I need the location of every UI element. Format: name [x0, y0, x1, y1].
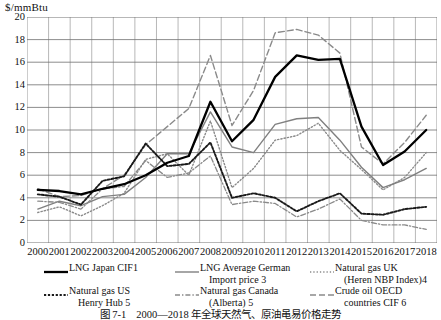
legend-label-line2: Henry Hub 5	[69, 297, 130, 309]
x-axis-tick-labels: 2000200120022003200420052006200720082009…	[27, 246, 437, 262]
series-line-natural-gas-uk-heren-nbp-index-4	[38, 121, 426, 216]
legend-swatch-icon	[44, 291, 68, 299]
series-line-natural-gas-us-henry-hub-5	[38, 142, 426, 214]
y-tick-label: 20	[1, 12, 25, 22]
x-tick-label: 2001	[49, 246, 70, 258]
chart-series-group	[38, 29, 426, 229]
x-tick-label: 2000	[27, 246, 48, 258]
x-tick-label: 2006	[157, 246, 178, 258]
y-tick-label: 16	[1, 57, 25, 67]
legend-label-line1: LNG Average German	[200, 262, 290, 273]
y-tick-label: 14	[1, 80, 25, 90]
legend-label-line2: (Heren NBP Index)4	[335, 274, 427, 286]
x-tick-label: 2005	[135, 246, 156, 258]
legend-label-line2: (Alberta) 5	[200, 297, 278, 309]
y-tick-label: 6	[1, 170, 25, 180]
figure-container: $/mmBtu 02468101214161820 20002001200220…	[0, 0, 441, 320]
legend-swatch-icon	[175, 291, 199, 299]
x-tick-label: 2014	[329, 246, 350, 258]
x-tick-label: 2002	[70, 246, 91, 258]
legend-label-line1: Natural gas Canada	[200, 285, 278, 296]
legend-swatch-icon	[44, 268, 68, 276]
legend-label-line1: LNG Japan CIF1	[69, 262, 138, 273]
y-tick-label: 10	[1, 125, 25, 135]
legend-swatch-icon	[310, 268, 334, 276]
legend-row-2: Natural gas USHenry Hub 5Natural gas Can…	[27, 287, 437, 309]
x-tick-label: 2010	[243, 246, 264, 258]
x-tick-label: 2018	[416, 246, 437, 258]
legend-label-line2: Import price 3	[200, 274, 290, 286]
y-tick-label: 12	[1, 102, 25, 112]
chart-svg	[27, 17, 437, 243]
legend-label: Natural gas Canada(Alberta) 5	[200, 285, 278, 308]
legend-label-line1: Natural gas US	[69, 285, 130, 296]
legend-label-line2: countries CIF 6	[335, 297, 406, 309]
x-tick-label: 2008	[200, 246, 221, 258]
legend-label-line1: Natural gas UK	[335, 262, 398, 273]
x-tick-label: 2011	[265, 246, 286, 258]
y-tick-label: 4	[1, 193, 25, 203]
legend-label: Natural gas USHenry Hub 5	[69, 285, 130, 308]
x-tick-label: 2012	[286, 246, 307, 258]
chart-gridlines	[27, 17, 437, 243]
y-tick-label: 8	[1, 148, 25, 158]
series-line-crude-oil-oecd-countries-cif-6	[38, 29, 426, 196]
legend-label: LNG Japan CIF1	[69, 262, 138, 274]
y-tick-label: 18	[1, 35, 25, 45]
figure-caption: 图 7-1 2000—2018 年全球天然气、原油黾易价格走势	[0, 309, 441, 320]
x-tick-label: 2009	[222, 246, 243, 258]
x-tick-label: 2007	[178, 246, 199, 258]
x-tick-label: 2016	[373, 246, 394, 258]
y-tick-label: 2	[1, 215, 25, 225]
x-tick-label: 2015	[351, 246, 372, 258]
y-tick-label: 0	[1, 238, 25, 248]
x-tick-label: 2003	[92, 246, 113, 258]
legend-row-1: LNG Japan CIF1LNG Average GermanImport p…	[27, 264, 437, 286]
legend-label: Crude oil OECDcountries CIF 6	[335, 285, 406, 308]
x-tick-label: 2017	[394, 246, 415, 258]
y-axis-tick-labels: 02468101214161820	[0, 17, 25, 243]
legend-label-line1: Crude oil OECD	[335, 285, 402, 296]
legend-swatch-icon	[175, 268, 199, 276]
chart-legend: LNG Japan CIF1LNG Average GermanImport p…	[27, 264, 437, 308]
x-tick-label: 2013	[308, 246, 329, 258]
series-line-natural-gas-canada-alberta-5	[38, 156, 426, 229]
chart-plot-area	[27, 17, 437, 243]
legend-swatch-icon	[310, 291, 334, 299]
legend-label: LNG Average GermanImport price 3	[200, 262, 290, 285]
x-tick-label: 2004	[114, 246, 135, 258]
legend-label: Natural gas UK(Heren NBP Index)4	[335, 262, 427, 285]
